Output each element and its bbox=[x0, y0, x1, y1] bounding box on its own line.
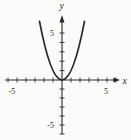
x-axis-arrow-icon bbox=[113, 78, 120, 83]
x-axis-label: x bbox=[122, 75, 128, 86]
x-tick-label: -5 bbox=[9, 87, 16, 96]
coordinate-plane: -555-5xy bbox=[0, 0, 131, 140]
y-axis-arrow-icon bbox=[60, 15, 65, 23]
y-tick-label: -5 bbox=[47, 121, 54, 130]
x-tick-label: 5 bbox=[104, 87, 108, 96]
y-tick-label: 5 bbox=[50, 29, 54, 38]
y-axis-label: y bbox=[59, 0, 65, 11]
parabola-graph-figure: -555-5xy bbox=[0, 0, 131, 140]
